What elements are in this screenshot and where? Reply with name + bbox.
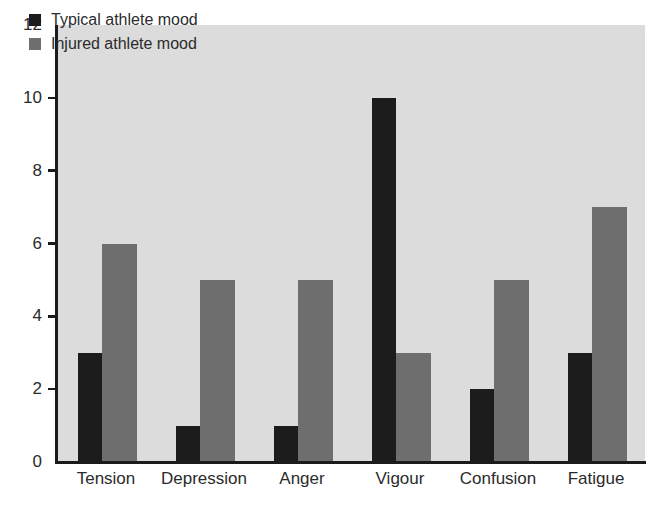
bar-tension-typical xyxy=(78,353,102,462)
bar-fatigue-typical xyxy=(568,353,592,462)
x-axis-tick-label: Depression xyxy=(155,470,253,487)
bar-chart-figure: 024681012 TensionDepressionAngerVigourCo… xyxy=(0,0,667,510)
chart-legend: Typical athlete mood Injured athlete moo… xyxy=(29,8,198,56)
legend-swatch-typical-icon xyxy=(29,14,41,26)
plot-area xyxy=(57,25,645,462)
y-axis-tick xyxy=(48,242,57,245)
legend-label-injured: Injured athlete mood xyxy=(51,36,197,52)
y-axis-tick xyxy=(48,97,57,100)
bar-confusion-typical xyxy=(470,389,494,462)
y-axis-tick-label: 2 xyxy=(0,380,42,397)
x-axis-tick-label: Vigour xyxy=(351,470,449,487)
bar-anger-typical xyxy=(274,426,298,462)
y-axis-tick-label: 8 xyxy=(0,162,42,179)
y-axis-tick xyxy=(48,315,57,318)
y-axis-tick-label: 4 xyxy=(0,307,42,324)
bar-vigour-injured xyxy=(396,353,431,462)
bar-anger-injured xyxy=(298,280,333,462)
y-axis-tick xyxy=(48,169,57,172)
legend-item-typical: Typical athlete mood xyxy=(29,8,198,32)
x-axis-line xyxy=(55,461,646,464)
y-axis-tick xyxy=(48,388,57,391)
x-axis-tick-label: Fatigue xyxy=(547,470,645,487)
legend-swatch-injured-icon xyxy=(29,38,41,50)
x-axis-tick-label: Confusion xyxy=(449,470,547,487)
y-axis-tick-label: 0 xyxy=(0,453,42,470)
legend-item-injured: Injured athlete mood xyxy=(29,32,198,56)
bar-fatigue-injured xyxy=(592,207,627,462)
bar-confusion-injured xyxy=(494,280,529,462)
bar-tension-injured xyxy=(102,244,137,463)
x-axis-tick-label: Tension xyxy=(57,470,155,487)
y-axis-tick xyxy=(48,461,57,464)
bar-depression-typical xyxy=(176,426,200,462)
bar-depression-injured xyxy=(200,280,235,462)
y-axis-tick-label: 6 xyxy=(0,235,42,252)
bars-layer xyxy=(57,25,645,462)
y-axis-tick-label: 10 xyxy=(0,89,42,106)
legend-label-typical: Typical athlete mood xyxy=(51,12,198,28)
bar-vigour-typical xyxy=(372,98,396,462)
x-axis-tick-label: Anger xyxy=(253,470,351,487)
